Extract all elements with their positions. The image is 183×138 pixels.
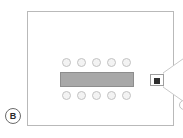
chair-bottom-4[interactable] <box>107 91 116 100</box>
chair-top-1[interactable] <box>62 58 71 67</box>
chair-top-4[interactable] <box>107 58 116 67</box>
figure-canvas: B <box>0 0 183 138</box>
panel-label-badge: B <box>5 108 21 124</box>
chair-top-5[interactable] <box>122 58 131 67</box>
projector-lens-icon <box>154 78 160 84</box>
chair-top-3[interactable] <box>92 58 101 67</box>
chair-bottom-3[interactable] <box>92 91 101 100</box>
presenter-position[interactable] <box>179 100 183 110</box>
projector[interactable] <box>150 74 164 86</box>
chair-bottom-2[interactable] <box>77 91 86 100</box>
conference-table[interactable] <box>60 72 134 87</box>
chair-bottom-5[interactable] <box>122 91 131 100</box>
chair-bottom-1[interactable] <box>62 91 71 100</box>
room-outline <box>27 11 174 126</box>
chair-top-2[interactable] <box>77 58 86 67</box>
